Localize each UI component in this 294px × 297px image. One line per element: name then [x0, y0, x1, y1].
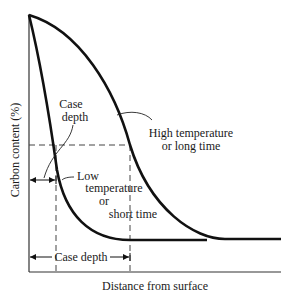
- low-temp-label-2: temperature: [85, 181, 142, 195]
- carburizing-diagram: Carbon content (%) Distance from surface…: [0, 0, 294, 297]
- high-temp-label-2: or long time: [162, 139, 221, 153]
- low-temp-label-3: or: [99, 194, 109, 208]
- case-depth-leader: [44, 125, 73, 178]
- high-temp-label-1: High temperature: [149, 126, 233, 140]
- low-temp-label-4: short time: [109, 207, 157, 221]
- case-depth-lower-label: Case depth: [55, 250, 108, 264]
- x-axis-label: Distance from surface: [102, 279, 208, 293]
- case-depth-upper-label-1: Case: [59, 97, 82, 111]
- y-axis-label: Carbon content (%): [8, 103, 22, 198]
- case-depth-upper-label-2: depth: [62, 110, 89, 124]
- low-temp-leader: [62, 177, 74, 180]
